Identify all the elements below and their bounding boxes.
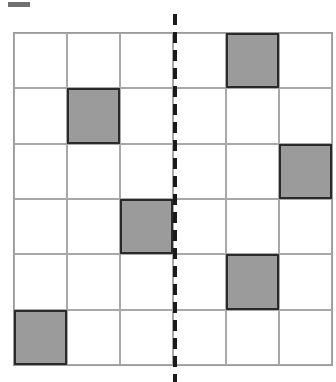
grid-cell [173,199,226,254]
grid-cell [279,33,332,88]
cropped-label-mark [8,2,30,7]
grid-cell [120,88,173,143]
grid-cell [67,254,120,309]
grid-cell [173,88,226,143]
grid-cell-filled [279,144,332,199]
grid-cell [279,310,332,365]
grid-cell [67,199,120,254]
grid-cell [14,88,67,143]
grid-cell [14,144,67,199]
grid-cell [173,310,226,365]
grid-cell-filled [14,310,67,365]
grid-cell [67,33,120,88]
grid-cell [14,254,67,309]
grid-cell-filled [67,88,120,143]
grid-cell [279,88,332,143]
grid-cell [67,310,120,365]
grid-cell-filled [120,199,173,254]
grid-cell [67,144,120,199]
grid-cell [226,310,279,365]
grid-cell [279,254,332,309]
grid-cell-filled [226,33,279,88]
grid-cell [226,199,279,254]
grid-cell [120,33,173,88]
grid-cell [279,199,332,254]
grid-cell [226,88,279,143]
grid-cell [14,199,67,254]
grid-cell [226,144,279,199]
grid-cell [120,310,173,365]
grid-cell [173,33,226,88]
grid-cell [120,144,173,199]
grid-cell [14,33,67,88]
dashed-axis-of-symmetry [173,14,177,382]
grid-cell [120,254,173,309]
grid-cell-filled [226,254,279,309]
grid-cell [173,144,226,199]
grid-cell [173,254,226,309]
